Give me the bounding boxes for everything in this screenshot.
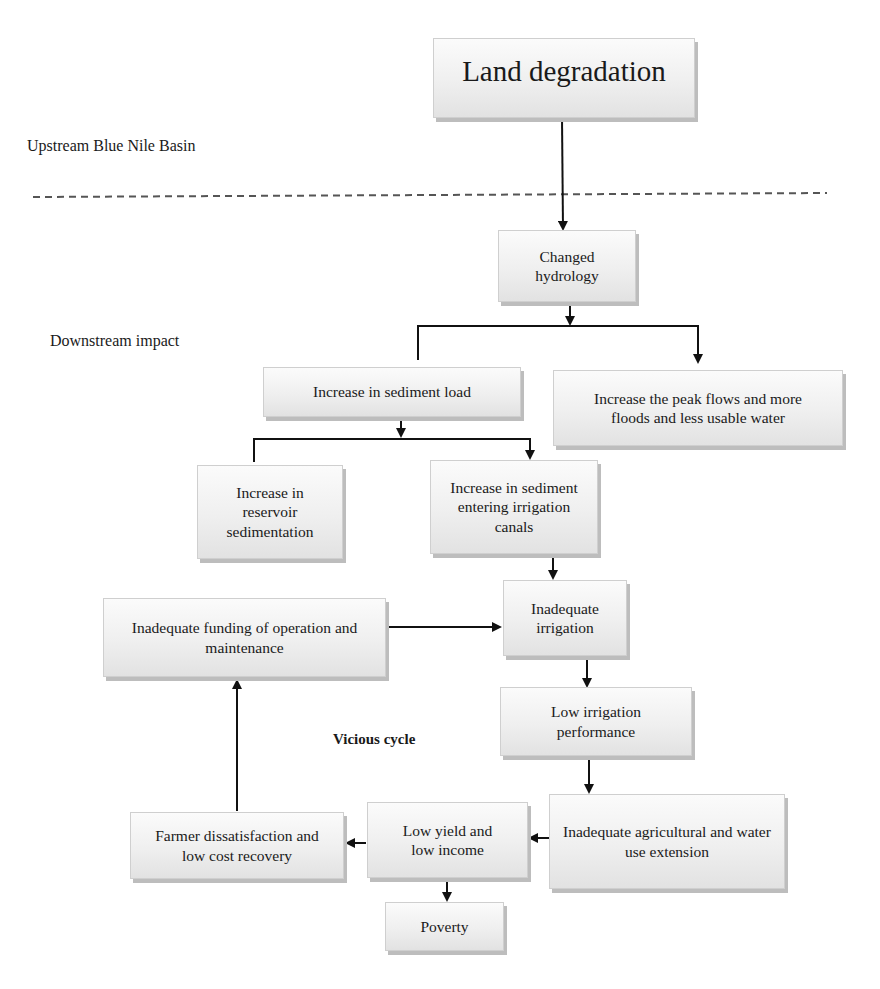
upstream-label: Upstream Blue Nile Basin bbox=[27, 137, 195, 155]
node-low-performance: Low irrigation performance bbox=[500, 687, 692, 756]
vicious-cycle-label: Vicious cycle bbox=[333, 731, 415, 748]
node-reservoir-sedimentation: Increase in reservoir sedimentation bbox=[197, 465, 343, 559]
node-farmer-dissatisfaction: Farmer dissatisfaction and low cost reco… bbox=[130, 812, 344, 879]
node-funding: Inadequate funding of operation and main… bbox=[103, 598, 386, 677]
downstream-label: Downstream impact bbox=[50, 332, 179, 350]
region-divider bbox=[33, 193, 827, 197]
node-sediment-load: Increase in sediment load bbox=[263, 367, 521, 417]
node-extension: Inadequate agricultural and water use ex… bbox=[549, 794, 785, 889]
node-sediment-canals: Increase in sediment entering irrigation… bbox=[430, 460, 598, 554]
node-poverty: Poverty bbox=[385, 902, 504, 951]
node-inadequate-irrigation: Inadequate irrigation bbox=[503, 580, 627, 656]
node-low-yield: Low yield and low income bbox=[367, 802, 528, 878]
node-changed-hydrology: Changed hydrology bbox=[498, 230, 636, 302]
node-land-degradation: Land degradation bbox=[433, 38, 695, 118]
node-peak-flows: Increase the peak flows and more floods … bbox=[553, 370, 843, 446]
